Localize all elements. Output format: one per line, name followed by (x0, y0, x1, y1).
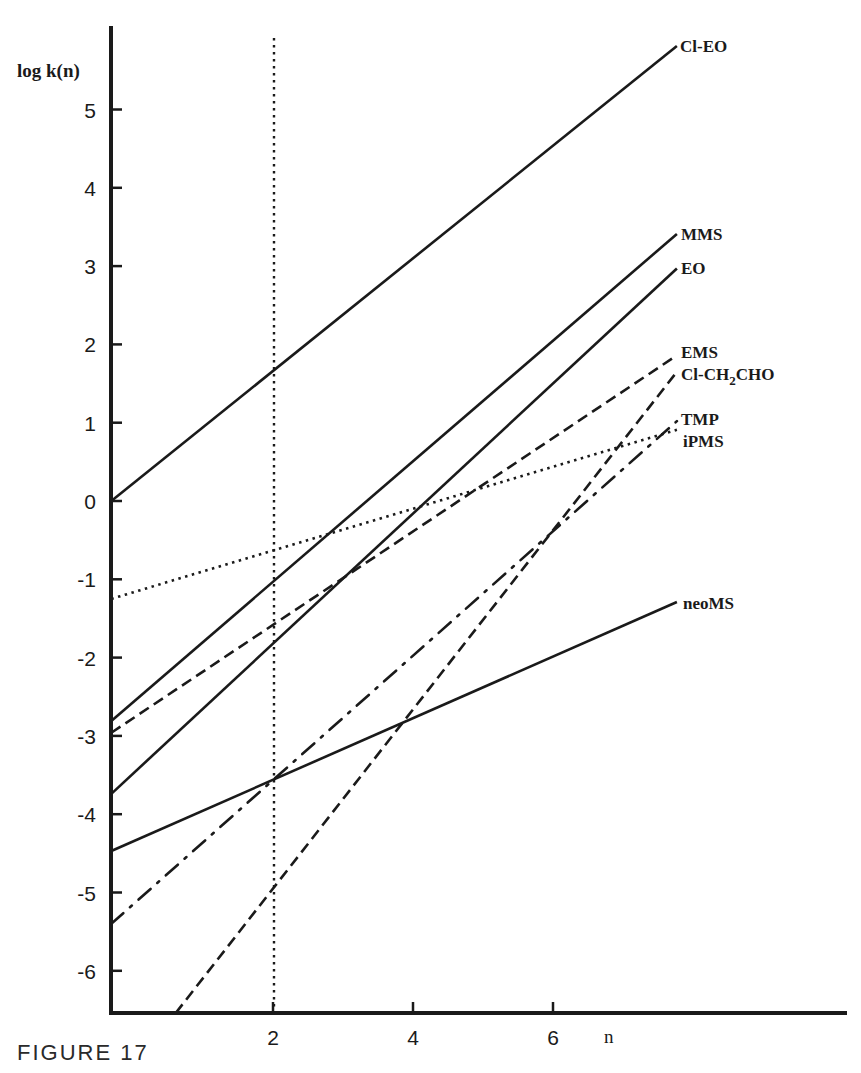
y-tick-label: -3 (77, 725, 96, 748)
y-tick-label: -6 (77, 960, 96, 983)
series-label-ipms: iPMS (683, 432, 724, 451)
series-line-cl-eo (111, 46, 677, 501)
x-axis-label: n (604, 1026, 614, 1047)
series-line-tmp (111, 421, 677, 924)
series-line-eo (111, 268, 677, 793)
x-ticks: 246 (267, 1002, 559, 1049)
y-axis-label: log k(n) (17, 60, 80, 82)
x-tick-label: 6 (547, 1026, 559, 1049)
series-label-neoms: neoMS (683, 594, 734, 613)
y-tick-label: 0 (84, 490, 96, 513)
y-tick-label: -5 (77, 882, 96, 905)
series-line-neoms (111, 602, 677, 851)
y-tick-label: 3 (84, 255, 96, 278)
y-tick-label: -4 (77, 803, 96, 826)
series-lines (111, 46, 677, 1013)
series-label-tmp: TMP (681, 410, 719, 429)
series-label-cl-ch2cho: Cl-CH2CHO (681, 365, 774, 388)
y-tick-label: 5 (84, 99, 96, 122)
y-tick-label: 4 (84, 177, 96, 200)
series-line-ipms (111, 430, 677, 599)
axes (109, 26, 847, 1015)
series-label-eo: EO (681, 259, 706, 278)
x-tick-label: 2 (267, 1026, 279, 1049)
y-tick-label: 2 (84, 333, 96, 356)
figure-caption: FIGURE 17 (17, 1040, 149, 1066)
series-labels: Cl-EOMMSEOEMSCl-CH2CHOTMPiPMSneoMS (680, 37, 774, 613)
series-line-cl-ch2cho (176, 372, 677, 1013)
x-tick-label: 4 (407, 1026, 419, 1049)
series-line-ems (111, 355, 677, 732)
chart-canvas: 543210-1-2-3-4-5-6 246 log k(n) n Cl-EOM… (0, 0, 861, 1073)
y-tick-label: -2 (77, 647, 96, 670)
y-tick-label: 1 (84, 412, 96, 435)
series-label-cl-eo: Cl-EO (680, 37, 727, 56)
y-tick-label: -1 (77, 568, 96, 591)
series-label-ems: EMS (681, 343, 718, 362)
series-line-mms (111, 234, 677, 721)
series-label-mms: MMS (681, 225, 723, 244)
